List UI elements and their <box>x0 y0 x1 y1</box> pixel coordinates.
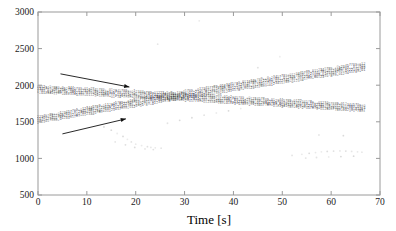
x-tick-label: 10 <box>82 197 92 207</box>
outlier-point <box>342 135 344 137</box>
outlier-point <box>152 149 154 151</box>
outlier-point <box>279 56 281 58</box>
y-tick-label: 2000 <box>15 81 34 91</box>
outlier-point <box>203 114 205 116</box>
x-tick-label: 30 <box>180 197 190 207</box>
outlier-point <box>144 148 146 150</box>
x-tick-label: 20 <box>131 197 141 207</box>
outlier-point <box>318 134 320 136</box>
outlier-point <box>135 143 137 145</box>
outlier-point <box>351 151 353 153</box>
outlier-point <box>357 151 359 153</box>
outlier-point <box>328 156 330 158</box>
outlier-point <box>147 146 149 148</box>
outlier-point <box>154 147 156 149</box>
y-tick-label: 1000 <box>15 154 34 164</box>
chart-figure: 00123457889+0123445789+0122345789++01234… <box>0 0 396 231</box>
outlier-point <box>114 141 116 143</box>
outlier-point <box>308 152 310 154</box>
outlier-point <box>134 147 136 149</box>
outlier-point <box>339 150 341 152</box>
x-tick-label: 50 <box>278 197 288 207</box>
outlier-point <box>130 141 132 143</box>
arrow-head <box>124 84 130 88</box>
outlier-point <box>167 122 169 124</box>
outlier-point <box>191 117 193 119</box>
outlier-point <box>110 129 112 131</box>
outlier-point <box>215 112 217 114</box>
outlier-point <box>160 147 162 149</box>
outlier-point <box>316 157 318 159</box>
outlier-point <box>340 156 342 158</box>
x-tick-label: 40 <box>229 197 239 207</box>
outlier-point <box>326 151 328 153</box>
outlier-point <box>103 126 105 128</box>
outlier-point <box>125 144 127 146</box>
outlier-point <box>150 147 152 149</box>
y-tick-label: 500 <box>20 190 35 200</box>
y-tick-label: 2500 <box>15 44 34 54</box>
outlier-point <box>198 20 200 22</box>
y-tick-label: 3000 <box>15 7 34 17</box>
outlier-point <box>353 155 355 157</box>
x-tick-label: 60 <box>326 197 336 207</box>
outlier-point <box>301 153 303 155</box>
lower-arrow <box>62 118 126 134</box>
outlier-point <box>333 150 335 152</box>
outlier-point <box>240 108 242 110</box>
x-axis-title: Time [s] <box>187 212 231 227</box>
data-series-layer: 00123457889+0123445789+0122345789++01234… <box>37 62 365 125</box>
outlier-point <box>179 119 181 121</box>
scatter-plot: 00123457889+0123445789+0122345789++01234… <box>0 0 396 231</box>
outlier-point <box>345 150 347 152</box>
y-tick-label: 1500 <box>15 117 34 127</box>
outlier-point <box>141 145 143 147</box>
outlier-point <box>127 138 129 140</box>
x-tick-label: 70 <box>375 197 385 207</box>
outlier-point <box>228 110 230 112</box>
outlier-point <box>305 157 307 159</box>
x-tick-label: 0 <box>36 197 41 207</box>
outlier-point <box>361 151 363 153</box>
outlier-point <box>320 151 322 153</box>
outlier-point <box>315 152 317 154</box>
outlier-point <box>291 155 293 157</box>
data-point-marker: + <box>363 109 365 113</box>
outlier-point <box>157 43 159 45</box>
outlier-point <box>257 67 259 69</box>
outlier-point <box>122 136 124 138</box>
data-point-marker: 1 <box>363 68 365 72</box>
outlier-point <box>116 133 118 135</box>
